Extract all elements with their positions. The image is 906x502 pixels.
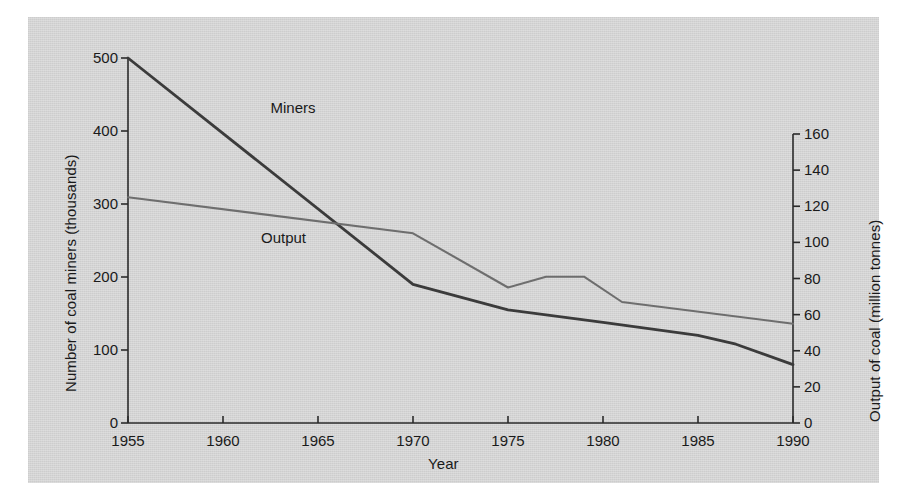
axis-lines <box>128 58 793 423</box>
x-tick-label: 1985 <box>670 432 726 449</box>
series-line-miners <box>128 58 793 365</box>
y-axis-right-title: Output of coal (million tonnes) <box>866 220 883 422</box>
y-tick-label-right: 20 <box>804 378 844 395</box>
axis-ticks <box>121 58 800 423</box>
series-label-output: Output <box>261 229 306 246</box>
y-tick-label-right: 100 <box>804 233 844 250</box>
x-tick-label: 1955 <box>100 432 156 449</box>
y-tick-label-left: 300 <box>68 195 118 212</box>
x-tick-label: 1960 <box>195 432 251 449</box>
chart-plot-area <box>0 0 906 502</box>
series-label-miners: Miners <box>271 99 316 116</box>
x-tick-label: 1990 <box>765 432 821 449</box>
x-tick-label: 1980 <box>575 432 631 449</box>
y-tick-label-right: 80 <box>804 270 844 287</box>
y-tick-label-right: 140 <box>804 161 844 178</box>
y-tick-label-right: 120 <box>804 197 844 214</box>
y-tick-label-left: 500 <box>68 49 118 66</box>
y-tick-label-right: 0 <box>804 414 844 431</box>
x-tick-label: 1965 <box>290 432 346 449</box>
x-axis-title: Year <box>428 455 459 472</box>
data-series-lines <box>128 58 793 365</box>
y-tick-label-left: 100 <box>68 341 118 358</box>
y-tick-label-right: 60 <box>804 306 844 323</box>
y-tick-label-left: 200 <box>68 268 118 285</box>
x-tick-label: 1970 <box>385 432 441 449</box>
chart-figure: Number of coal miners (thousands) Output… <box>0 0 906 502</box>
x-tick-label: 1975 <box>480 432 536 449</box>
y-tick-label-right: 160 <box>804 125 844 142</box>
y-tick-label-right: 40 <box>804 342 844 359</box>
y-tick-label-left: 400 <box>68 122 118 139</box>
y-tick-label-left: 0 <box>68 414 118 431</box>
series-line-output <box>128 197 793 324</box>
